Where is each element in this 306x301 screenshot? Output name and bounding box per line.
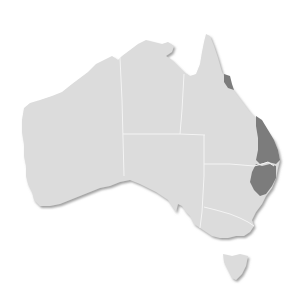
australia-map bbox=[0, 0, 306, 301]
mainland bbox=[22, 34, 280, 238]
tasmania bbox=[223, 254, 248, 280]
highlight-se-qld bbox=[256, 116, 280, 164]
